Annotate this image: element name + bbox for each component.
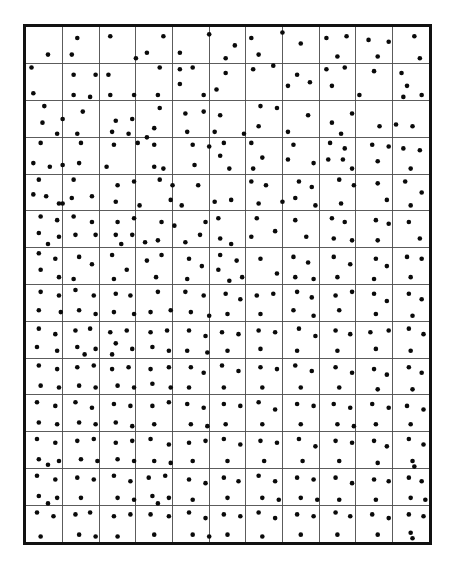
data-point	[37, 177, 42, 182]
data-point	[229, 242, 234, 247]
data-point	[156, 93, 161, 98]
data-point	[260, 422, 265, 427]
data-point	[145, 135, 150, 140]
data-point	[53, 440, 58, 445]
data-point	[293, 196, 298, 201]
data-point	[335, 422, 340, 427]
data-point	[73, 400, 78, 405]
data-point	[233, 43, 238, 48]
data-point	[218, 236, 223, 241]
data-point	[372, 439, 377, 444]
data-point	[203, 220, 208, 225]
data-point	[412, 464, 417, 469]
data-point	[324, 36, 329, 41]
data-point	[372, 477, 377, 482]
data-point	[77, 308, 82, 313]
data-point	[370, 402, 375, 407]
data-point	[407, 220, 412, 225]
data-point	[82, 352, 87, 357]
data-point	[53, 404, 58, 409]
data-point	[377, 124, 382, 129]
data-point	[73, 288, 78, 293]
data-point	[90, 405, 95, 410]
data-point	[280, 30, 285, 35]
data-point	[207, 32, 212, 37]
data-point	[130, 347, 135, 352]
data-point	[148, 330, 153, 335]
data-point	[405, 255, 410, 260]
data-point	[337, 308, 342, 313]
data-point	[73, 233, 78, 238]
data-point	[190, 142, 195, 147]
data-point	[374, 312, 379, 317]
data-point	[236, 332, 241, 337]
data-point	[408, 275, 413, 280]
data-point	[198, 233, 203, 238]
data-point	[168, 198, 173, 203]
data-point	[357, 93, 362, 98]
data-point	[145, 258, 150, 263]
data-point	[167, 348, 172, 353]
data-point	[293, 363, 298, 368]
data-point	[408, 348, 413, 353]
data-point	[308, 80, 313, 85]
data-point	[256, 124, 261, 129]
data-point	[222, 512, 227, 517]
data-point	[309, 369, 314, 374]
data-point	[337, 385, 342, 390]
data-point	[408, 496, 413, 501]
data-point	[348, 332, 353, 337]
data-point	[229, 198, 234, 203]
data-point	[207, 313, 212, 318]
data-point	[407, 437, 412, 442]
data-point	[386, 144, 391, 149]
data-point	[225, 348, 230, 353]
data-point	[275, 367, 280, 372]
data-point	[178, 50, 183, 55]
data-point	[110, 253, 115, 258]
data-point	[38, 141, 43, 146]
data-point	[225, 312, 230, 317]
data-point	[256, 201, 261, 206]
data-point	[71, 93, 76, 98]
data-point	[255, 216, 260, 221]
data-point	[132, 93, 137, 98]
data-point	[37, 420, 42, 425]
data-point	[128, 512, 133, 517]
data-point	[385, 372, 390, 377]
data-point	[37, 457, 42, 462]
data-point	[190, 459, 195, 464]
data-point	[258, 256, 263, 261]
data-point	[421, 442, 426, 447]
data-point	[348, 514, 353, 519]
data-point	[335, 275, 340, 280]
data-point	[128, 404, 133, 409]
data-point	[134, 56, 139, 61]
data-point	[419, 93, 424, 98]
data-point	[419, 479, 424, 484]
data-point	[407, 291, 412, 296]
data-point	[407, 326, 412, 331]
data-point	[137, 203, 142, 208]
data-point	[280, 199, 285, 204]
data-point	[275, 106, 280, 111]
data-point	[421, 514, 426, 519]
data-point	[372, 69, 377, 74]
data-point	[29, 65, 34, 70]
data-point	[46, 501, 51, 506]
data-point	[249, 179, 254, 184]
data-point	[152, 126, 157, 131]
data-point	[88, 510, 93, 515]
data-point	[337, 459, 342, 464]
data-point	[91, 477, 96, 482]
data-point	[350, 111, 355, 116]
data-point	[385, 198, 390, 203]
data-point	[187, 477, 192, 482]
data-point	[95, 459, 100, 464]
data-point	[57, 275, 62, 280]
data-point	[366, 38, 371, 43]
data-point	[37, 363, 42, 368]
data-point	[401, 95, 406, 100]
data-point	[249, 36, 254, 41]
data-point	[112, 142, 117, 147]
